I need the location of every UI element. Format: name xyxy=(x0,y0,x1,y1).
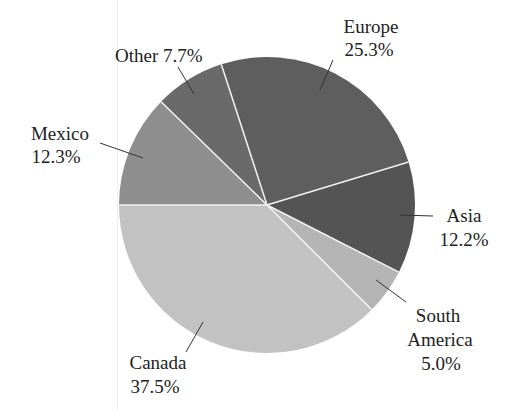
label-mexico-pct: 12.3% xyxy=(31,146,80,167)
label-south-america-name1: South xyxy=(416,305,461,326)
label-asia-pct: 12.2% xyxy=(439,229,488,250)
label-canada-pct: 37.5% xyxy=(130,376,179,397)
pie-chart: Mexico 12.3% Other 7.7% Europe 25.3% Asi… xyxy=(0,0,506,410)
label-asia-name: Asia xyxy=(447,205,482,226)
label-south-america-name2: America xyxy=(407,329,473,350)
label-europe-pct: 25.3% xyxy=(344,39,393,60)
label-mexico-name: Mexico xyxy=(31,123,89,144)
label-canada-name: Canada xyxy=(130,352,188,373)
pie-slices xyxy=(119,57,415,353)
label-europe-name: Europe xyxy=(344,16,399,37)
label-south-america-pct: 5.0% xyxy=(421,353,461,374)
label-other: Other 7.7% xyxy=(115,45,203,66)
